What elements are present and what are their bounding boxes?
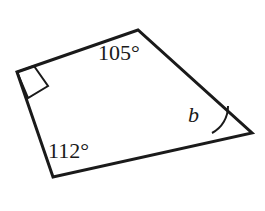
quadrilateral-diagram-svg — [0, 0, 265, 211]
angle-label-top: 105° — [98, 42, 140, 64]
angle-label-bottom-left: 112° — [48, 140, 89, 162]
angle-label-right-variable: b — [188, 104, 199, 126]
geometry-figure: 105° 112° b — [0, 0, 265, 211]
